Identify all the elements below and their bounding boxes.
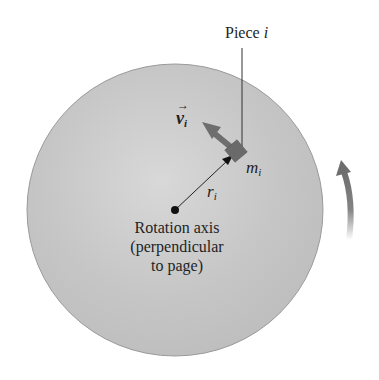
piece-label: Piece i [225,24,268,42]
rotating-disk-diagram [0,0,379,380]
rotation-direction-arrow [344,172,351,240]
radius-label: ri [207,182,217,202]
rotation-axis-label: Rotation axis (perpendicular to page) [103,218,251,275]
mass-label: mi [246,158,261,178]
velocity-label: → vi [176,108,187,129]
vector-arrow-icon: → [177,98,189,113]
rotation-arrowhead-icon [336,160,351,176]
rotation-axis-dot [171,206,179,214]
